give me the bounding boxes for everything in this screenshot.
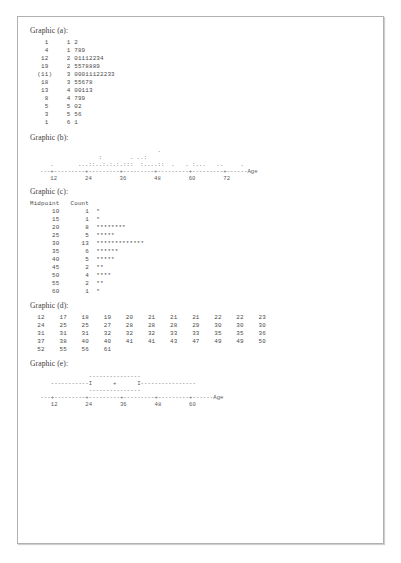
graphic-d-label: Graphic (d): — [30, 302, 375, 310]
document-page: Graphic (a): 1 1 2 4 1 789 12 2 01112234… — [17, 16, 384, 544]
graphic-a-label: Graphic (a): — [30, 27, 375, 35]
boxplot: --------------- -----------I + I--------… — [30, 373, 375, 408]
graphic-d-section: Graphic (d): 12 17 18 19 20 21 21 21 22 … — [30, 302, 375, 354]
graphic-c-label: Graphic (c): — [30, 188, 375, 196]
graphic-c-section: Graphic (c): Midpoint Count 10 1 * 15 1 … — [30, 188, 375, 296]
graphic-b-section: Graphic (b): . : . ..: . ...::..:.:.:.::… — [30, 134, 375, 181]
sorted-data-table: 12 17 18 19 20 21 21 21 22 22 23 24 25 2… — [30, 314, 375, 354]
graphic-e-label: Graphic (e): — [30, 360, 375, 368]
graphic-a-section: Graphic (a): 1 1 2 4 1 789 12 2 01112234… — [30, 27, 375, 127]
stem-and-leaf-plot: 1 1 2 4 1 789 12 2 01112234 19 2 5578889… — [30, 39, 375, 127]
dotplot: . : . ..: . ...::..:.:.:.::: :....:: . .… — [30, 147, 375, 182]
graphic-e-section: Graphic (e): --------------- -----------… — [30, 360, 375, 407]
histogram-table: Midpoint Count 10 1 * 15 1 * 20 8 ******… — [30, 200, 375, 296]
page-content: Graphic (a): 1 1 2 4 1 789 12 2 01112234… — [18, 17, 383, 543]
graphic-b-label: Graphic (b): — [30, 134, 375, 142]
scan-background: Graphic (a): 1 1 2 4 1 789 12 2 01112234… — [0, 0, 401, 563]
